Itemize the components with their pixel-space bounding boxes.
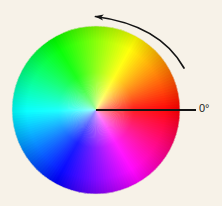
hue-color-wheel-figure: 0° bbox=[0, 0, 222, 206]
color-wheel-canvas bbox=[0, 0, 222, 206]
zero-degree-label: 0° bbox=[199, 103, 210, 114]
